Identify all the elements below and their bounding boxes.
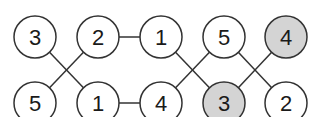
node-label: 5	[29, 91, 41, 116]
node-label: 3	[29, 25, 41, 50]
node-label: 1	[92, 91, 104, 116]
node-label: 1	[155, 25, 167, 50]
node-top-1: 2	[77, 16, 119, 58]
node-label: 3	[218, 91, 230, 116]
graph-diagram: 3215451432	[0, 0, 327, 117]
node-bottom-2: 4	[140, 82, 182, 117]
node-label: 4	[155, 91, 167, 116]
node-top-4: 4	[265, 16, 307, 58]
node-bottom-4: 2	[265, 82, 307, 117]
node-top-2: 1	[140, 16, 182, 58]
node-top-3: 5	[203, 16, 245, 58]
node-top-0: 3	[14, 16, 56, 58]
nodes-layer: 3215451432	[14, 16, 307, 117]
node-bottom-0: 5	[14, 82, 56, 117]
node-label: 5	[218, 25, 230, 50]
node-bottom-1: 1	[77, 82, 119, 117]
node-bottom-3: 3	[203, 82, 245, 117]
node-label: 2	[92, 25, 104, 50]
node-label: 4	[280, 25, 292, 50]
node-label: 2	[280, 91, 292, 116]
